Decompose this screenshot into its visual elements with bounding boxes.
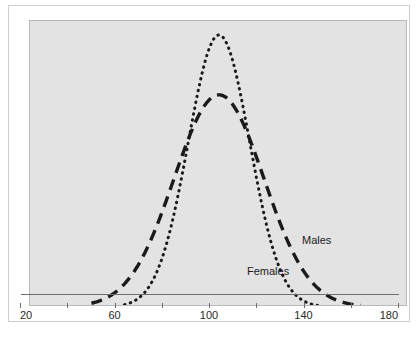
x-tick-label-60: 60: [108, 309, 120, 321]
x-tick-160: [351, 303, 352, 308]
distribution-curves: [30, 21, 407, 306]
x-tick-60: [115, 303, 116, 308]
figure-outer-frame: Males Females: [8, 5, 410, 322]
x-tick-120: [256, 303, 257, 308]
x-tick-180: [398, 303, 399, 308]
plot-area: Males Females: [29, 20, 407, 306]
x-axis-line: [21, 294, 399, 295]
series-label-males: Males: [302, 234, 331, 246]
x-tick-140: [304, 303, 305, 308]
series-label-females: Females: [247, 265, 289, 277]
x-tick-label-100: 100: [200, 309, 218, 321]
curve-females: [125, 35, 321, 306]
x-tick-40: [67, 303, 68, 308]
x-tick-80: [162, 303, 163, 308]
x-tick-label-140: 140: [294, 309, 312, 321]
curve-males: [91, 95, 360, 306]
x-tick-label-180: 180: [380, 309, 398, 321]
x-tick-100: [209, 303, 210, 308]
x-tick-20: [20, 303, 21, 308]
x-tick-label-20: 20: [20, 309, 32, 321]
chart-figure: Males Females 20 60 100 140 180: [0, 0, 419, 339]
